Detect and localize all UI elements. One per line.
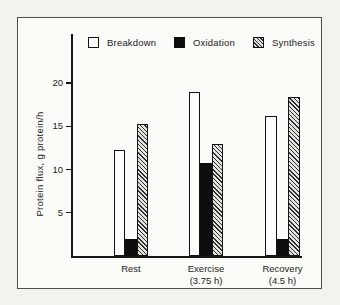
bar-breakdown-rest [114,150,126,256]
page: { "chart_data": { "type": "bar", "title"… [0,0,340,305]
legend-label-breakdown: Breakdown [107,37,156,48]
x-category-label-rest: Rest [121,263,141,275]
bar-breakdown-recovery-4-5-h [265,116,277,256]
bar-oxidation-recovery-4-5-h [277,239,289,256]
legend-swatch-synthesis-icon [253,37,264,48]
y-axis-line [71,34,73,257]
y-tick-label-15: 15 [37,121,63,131]
x-category-label-line: (3.75 h) [188,275,224,287]
y-tick-label-10: 10 [37,165,63,175]
bar-synthesis-recovery-4-5-h [288,97,300,256]
y-tick-10 [66,169,72,170]
x-category-label-line: Exercise [188,263,224,275]
legend-label-oxidation: Oxidation [193,37,235,48]
legend-swatch-breakdown-icon [88,37,99,48]
bar-synthesis-exercise-3-75-h [212,144,224,256]
x-category-label-exercise-3-75-h: Exercise(3.75 h) [188,263,224,287]
y-tick-15 [66,126,72,127]
x-category-label-line: (4.5 h) [262,275,302,287]
x-category-label-line: Recovery [262,263,302,275]
bar-oxidation-exercise-3-75-h [200,163,212,256]
bar-breakdown-exercise-3-75-h [189,92,201,256]
y-tick-20 [66,82,72,83]
bar-synthesis-rest [137,124,149,256]
y-tick-5 [66,212,72,213]
legend-item-breakdown: Breakdown [88,37,156,48]
legend-item-synthesis: Synthesis [253,37,315,48]
figure-frame: Protein flux, g protein/h 5101520RestExe… [17,17,322,289]
x-category-label-recovery-4-5-h: Recovery(4.5 h) [262,263,302,287]
y-tick-label-5: 5 [37,208,63,218]
legend-swatch-oxidation-icon [174,37,185,48]
y-tick-label-20: 20 [37,78,63,88]
x-axis-line [71,256,302,258]
legend-label-synthesis: Synthesis [272,37,315,48]
legend-item-oxidation: Oxidation [174,37,235,48]
x-category-label-line: Rest [121,263,141,275]
bar-oxidation-rest [125,239,137,256]
